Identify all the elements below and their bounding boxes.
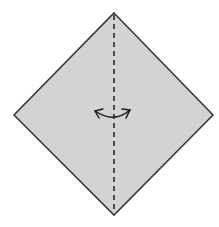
origami-diagram-svg	[0, 0, 219, 227]
origami-diagram-canvas	[0, 0, 219, 227]
